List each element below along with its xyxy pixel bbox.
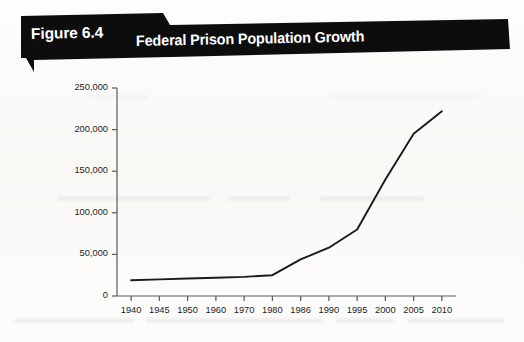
y-axis-tick-label: 200,000 [48,124,108,134]
x-axis [117,296,456,301]
y-axis-tick-label: 150,000 [48,165,108,175]
y-axis [112,88,117,296]
y-axis-ticks [112,88,117,296]
y-axis-tick-label: 0 [48,290,108,300]
y-axis-tick-label: 250,000 [48,82,108,92]
line-chart: 050,000100,000150,000200,000250,000 1940… [0,0,524,342]
data-series-line [131,111,442,280]
y-axis-tick-label: 50,000 [48,248,108,258]
x-axis-tick-label: 2010 [422,305,462,315]
y-axis-tick-label: 100,000 [48,207,108,217]
x-axis-ticks [131,296,442,301]
